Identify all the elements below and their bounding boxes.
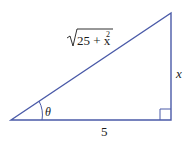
opposite-label: x: [175, 66, 182, 81]
hypotenuse-exponent: 2: [106, 30, 110, 39]
triangle-diagram: 25 + x 2 x 5 θ: [0, 0, 193, 142]
angle-arc: [39, 101, 42, 120]
angle-label: θ: [45, 105, 51, 119]
adjacent-label: 5: [101, 124, 108, 139]
right-angle-marker: [160, 109, 171, 120]
